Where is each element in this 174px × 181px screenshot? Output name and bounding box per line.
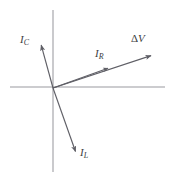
label-i-r-sub: R xyxy=(99,52,104,61)
label-i-r: IR xyxy=(95,48,104,61)
label-i-c-sub: C xyxy=(24,38,29,47)
vector-i-c xyxy=(41,45,53,88)
vector-i-l xyxy=(53,88,76,152)
label-i-c: IC xyxy=(20,34,29,47)
phasor-diagram-figure: IC IR ΔV IL xyxy=(0,0,174,181)
label-delta-v: ΔV xyxy=(131,33,145,44)
label-i-l: IL xyxy=(80,147,88,160)
vector-i-r xyxy=(53,68,108,88)
label-i-l-sub: L xyxy=(84,151,88,160)
label-delta-v-main: V xyxy=(138,32,145,44)
